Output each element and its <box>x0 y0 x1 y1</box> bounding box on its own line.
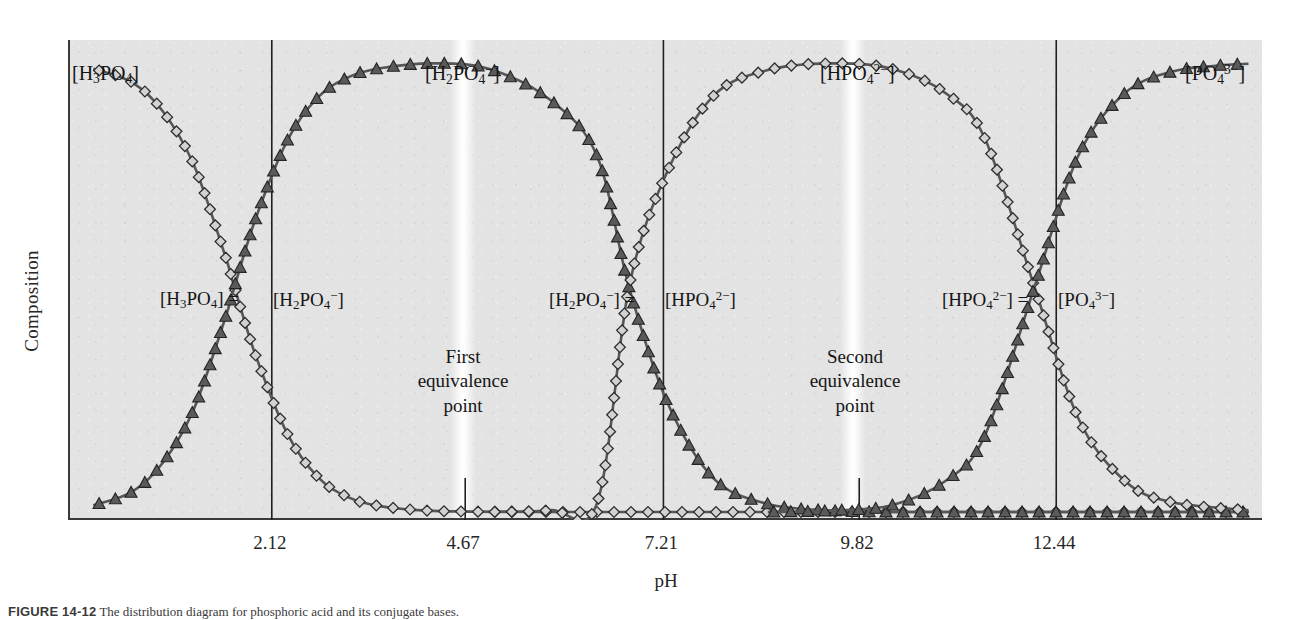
marker-diamond <box>250 350 261 361</box>
marker-diamond <box>405 504 416 515</box>
marker-triangle <box>615 248 627 259</box>
marker-diamond <box>1077 422 1088 433</box>
marker-diamond <box>422 505 433 516</box>
marker-triangle <box>255 197 267 208</box>
marker-diamond <box>677 507 688 518</box>
marker-diamond <box>1002 197 1013 208</box>
marker-triangle <box>1077 141 1089 152</box>
marker-diamond <box>199 188 210 199</box>
marker-diamond <box>919 75 930 86</box>
marker-triangle <box>619 264 631 275</box>
figure-distribution-diagram: Composition [H3PO4] [H2PO4−] [HPO42−] [P… <box>0 0 1291 620</box>
marker-triangle <box>642 346 654 357</box>
marker-triangle <box>601 181 613 192</box>
marker-diamond <box>602 443 613 454</box>
marker-diamond <box>1048 343 1059 354</box>
marker-diamond <box>613 359 624 370</box>
marker-triangle <box>978 430 990 441</box>
marker-diamond <box>220 252 231 263</box>
marker-diamond <box>1038 310 1049 321</box>
marker-triangle <box>1132 78 1144 89</box>
marker-triangle <box>1027 285 1039 296</box>
x-tick-9-82: 9.82 <box>802 532 912 554</box>
marker-diamond <box>225 269 236 280</box>
marker-triangle <box>324 81 336 92</box>
crossing-label-1-left: [H3PO4] = <box>160 288 239 312</box>
marker-diamond <box>371 500 382 511</box>
marker-diamond <box>1058 375 1069 386</box>
marker-triangle <box>274 149 286 160</box>
crossing-label-2-left: [H2PO4−] = <box>549 288 635 313</box>
marker-triangle <box>1032 269 1044 280</box>
marker-diamond <box>439 506 450 517</box>
marker-diamond <box>205 204 216 215</box>
marker-diamond <box>240 318 251 329</box>
marker-diamond <box>650 194 661 205</box>
marker-diamond <box>1017 245 1028 256</box>
figure-caption: FIGURE 14-12 The distribution diagram fo… <box>8 604 1208 620</box>
marker-diamond <box>904 69 915 80</box>
marker-triangle <box>520 78 532 89</box>
marker-diamond <box>626 507 637 518</box>
marker-triangle <box>1042 237 1054 248</box>
marker-triangle <box>1058 188 1070 199</box>
marker-diamond <box>339 490 350 501</box>
marker-triangle <box>608 214 620 225</box>
y-axis-label: Composition <box>21 151 43 451</box>
marker-diamond <box>506 506 517 517</box>
x-axis-label: pH <box>606 570 726 592</box>
marker-triangle <box>268 165 280 176</box>
marker-triangle <box>281 134 293 145</box>
marker-diamond <box>388 503 399 514</box>
marker-diamond <box>489 506 500 517</box>
marker-triangle <box>1002 367 1014 378</box>
marker-diamond <box>1165 497 1176 508</box>
marker-diamond <box>609 507 620 518</box>
marker-triangle <box>683 439 695 450</box>
marker-triangle <box>675 424 687 435</box>
marker-diamond <box>979 133 990 144</box>
marker-diamond <box>605 426 616 437</box>
marker-triangle <box>244 229 256 240</box>
marker-diamond <box>694 507 705 518</box>
marker-diamond <box>609 392 620 403</box>
crossing-label-2-right: [HPO42−] <box>665 288 736 313</box>
marker-triangle <box>637 330 649 341</box>
marker-diamond <box>728 507 739 518</box>
marker-diamond <box>617 325 628 336</box>
marker-diamond <box>629 258 640 269</box>
marker-triangle <box>234 261 246 272</box>
marker-diamond <box>769 63 780 74</box>
marker-diamond <box>992 164 1003 175</box>
marker-triangle <box>648 362 660 373</box>
marker-diamond <box>737 72 748 83</box>
species-label-h3po4: [H3PO4] <box>72 62 139 87</box>
caption-text: The distribution diagram for phosphoric … <box>99 604 459 619</box>
marker-diamond <box>268 398 279 409</box>
marker-diamond <box>193 172 204 183</box>
species-label-hpo4: [HPO42−] <box>820 62 895 88</box>
curves-svg <box>70 40 1264 520</box>
marker-triangle <box>179 422 191 433</box>
marker-triangle <box>991 399 1003 410</box>
marker-triangle <box>590 149 602 160</box>
marker-diamond <box>786 60 797 71</box>
marker-diamond <box>1148 492 1159 503</box>
marker-diamond <box>1007 213 1018 224</box>
marker-diamond <box>745 507 756 518</box>
marker-diamond <box>187 156 198 167</box>
x-tick-12-44: 12.44 <box>999 532 1109 554</box>
x-tick-2-12: 2.12 <box>215 532 325 554</box>
marker-triangle <box>985 415 997 426</box>
equivalence-point-first: Firstequivalencepoint <box>363 345 563 418</box>
marker-triangle <box>186 407 198 418</box>
marker-diamond <box>671 147 682 158</box>
marker-diamond <box>644 209 655 220</box>
marker-triangle <box>1047 221 1059 232</box>
marker-diamond <box>593 493 604 504</box>
species-label-h2po4: [H2PO4−] <box>425 62 500 88</box>
marker-triangle <box>632 313 644 324</box>
crossing-label-3-left: [HPO42−] = <box>942 288 1028 313</box>
marker-diamond <box>275 413 286 424</box>
marker-triangle <box>667 409 679 420</box>
